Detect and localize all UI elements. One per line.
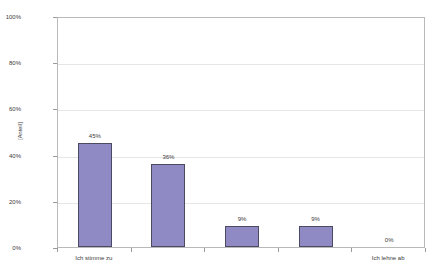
x-axis-tick-mark — [131, 248, 132, 252]
bar-slot: 9% — [279, 16, 353, 247]
bar-slot: 45% — [58, 16, 132, 247]
bar-value-label: 9% — [311, 215, 320, 223]
bar-slot: 9% — [205, 16, 279, 247]
y-axis-tick-label: 80% — [0, 59, 21, 67]
bar-chart-figure: [Anteil] 0%20%40%60%80%100% 45%36%9%9%0%… — [0, 0, 444, 275]
y-axis-tick-label: 60% — [0, 105, 21, 113]
x-axis-tick-mark — [425, 248, 426, 252]
bar-slot: 0% — [352, 16, 426, 247]
x-axis-tick-mark — [57, 248, 58, 252]
bar-value-label: 36% — [162, 153, 174, 161]
bar-slot: 36% — [132, 16, 206, 247]
bar[interactable] — [151, 164, 185, 247]
x-axis-category-label: Ich stimme zu — [75, 254, 112, 263]
bar[interactable] — [225, 226, 259, 247]
bar[interactable] — [78, 143, 112, 247]
y-axis-tick-label: 20% — [0, 198, 21, 206]
x-axis-category-label: Ich lehne ab — [372, 254, 405, 263]
bar[interactable] — [299, 226, 333, 247]
y-axis-tick-label: 40% — [0, 152, 21, 160]
bar-value-label: 0% — [385, 236, 394, 244]
y-axis-tick-label: 100% — [0, 13, 21, 21]
x-axis-tick-mark — [278, 248, 279, 252]
plot-area: 45%36%9%9%0% — [57, 17, 425, 248]
x-axis-tick-mark — [204, 248, 205, 252]
y-axis-tick-label: 0% — [0, 244, 21, 252]
x-axis-tick-mark — [351, 248, 352, 252]
bar-value-label: 45% — [89, 132, 101, 140]
bar-value-label: 9% — [238, 215, 247, 223]
